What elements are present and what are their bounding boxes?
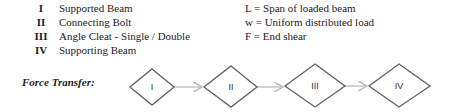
- node-label: IV: [395, 81, 404, 91]
- node-label: III: [311, 81, 319, 91]
- force-transfer-flow: I II III IV: [0, 0, 456, 112]
- node-label: II: [228, 82, 233, 92]
- node-label: I: [151, 82, 154, 92]
- node-connecting-bolt: II: [204, 66, 257, 107]
- node-supporting-beam: IV: [369, 64, 430, 107]
- node-supported-beam: I: [130, 69, 174, 105]
- node-angle-cleat: III: [285, 64, 345, 107]
